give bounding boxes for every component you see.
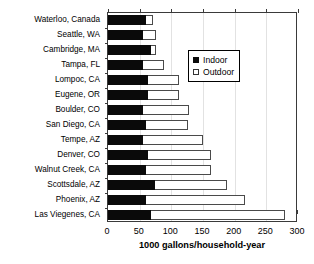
y-axis-tick — [105, 148, 108, 149]
y-axis-tick — [105, 163, 108, 164]
y-axis-tick — [105, 208, 108, 209]
x-axis-title: 1000 gallons/household-year — [107, 240, 297, 250]
bar-segment-indoor — [108, 45, 151, 55]
bar-segment-indoor — [108, 90, 148, 100]
bar-row — [108, 118, 298, 133]
bar-row — [108, 178, 298, 193]
y-axis-tick — [105, 88, 108, 89]
y-axis-tick — [105, 178, 108, 179]
y-axis-tick — [105, 28, 108, 29]
bar-row — [108, 103, 298, 118]
legend-entry-outdoor: Outdoor — [193, 66, 234, 78]
bar-segment-indoor — [108, 135, 143, 145]
water-use-bar-chart: Waterloo, CanadaSeattle, WACambridge, MA… — [0, 0, 314, 264]
bar-row — [108, 208, 298, 223]
category-label: Denver, CO — [57, 147, 100, 162]
x-axis-tick-top — [298, 9, 299, 13]
bar-row — [108, 148, 298, 163]
bar-segment-indoor — [108, 195, 146, 205]
category-label: Tampa, FL — [61, 57, 100, 72]
y-axis-tick — [105, 43, 108, 44]
bar-row — [108, 163, 298, 178]
legend-swatch-indoor-icon — [193, 57, 199, 63]
y-axis-tick — [105, 133, 108, 134]
category-label: Scottsdale, AZ — [47, 177, 100, 192]
legend-label-indoor: Indoor — [203, 55, 227, 65]
plot-area — [107, 12, 297, 222]
bar-segment-indoor — [108, 180, 155, 190]
bar-segment-indoor — [108, 30, 143, 40]
bar-segment-indoor — [108, 120, 146, 130]
bar-row — [108, 13, 298, 28]
category-label: Boulder, CO — [55, 102, 100, 117]
legend-entry-indoor: Indoor — [193, 54, 234, 66]
y-axis-tick — [105, 58, 108, 59]
legend-swatch-outdoor-icon — [193, 69, 199, 75]
category-label: Tempe, AZ — [61, 132, 100, 147]
category-label: Lompoc, CA — [55, 72, 100, 87]
bar-segment-indoor — [108, 165, 146, 175]
bar-segment-indoor — [108, 150, 148, 160]
bar-row — [108, 133, 298, 148]
x-axis-tick-label: 300 — [277, 226, 314, 236]
y-axis-tick — [105, 73, 108, 74]
category-label: Cambridge, MA — [43, 42, 100, 57]
category-axis-labels: Waterloo, CanadaSeattle, WACambridge, MA… — [0, 12, 104, 222]
y-axis-tick — [105, 118, 108, 119]
bar-segment-indoor — [108, 105, 143, 115]
bar-row — [108, 193, 298, 208]
legend-label-outdoor: Outdoor — [203, 67, 234, 77]
category-label: Waterloo, Canada — [34, 12, 100, 27]
y-axis-tick — [105, 193, 108, 194]
bar-row — [108, 28, 298, 43]
category-label: San Diego, CA — [46, 117, 100, 132]
category-label: Seattle, WA — [57, 27, 100, 42]
bar-segment-indoor — [108, 15, 146, 25]
category-label: Walnut Creek, CA — [35, 162, 100, 177]
bar-row — [108, 88, 298, 103]
y-axis-tick — [105, 103, 108, 104]
x-axis-tick — [297, 210, 298, 214]
category-label: Las Viegenes, CA — [35, 207, 100, 222]
category-label: Eugene, OR — [55, 87, 100, 102]
bar-segment-indoor — [108, 210, 151, 220]
chart-legend: Indoor Outdoor — [188, 50, 240, 82]
bar-segment-indoor — [108, 60, 143, 70]
category-label: Phoenix, AZ — [56, 192, 100, 207]
bar-segment-indoor — [108, 75, 148, 85]
